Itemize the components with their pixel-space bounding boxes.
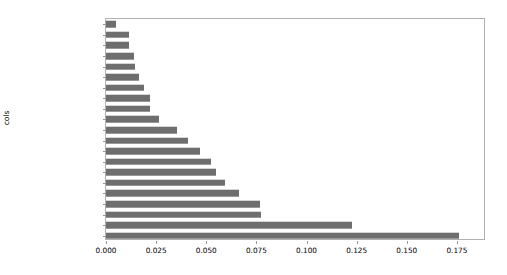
bar-row: saleElapsed: [106, 156, 486, 167]
bar-row: Hydraulics: [106, 82, 486, 93]
bar: [106, 222, 352, 229]
y-tick-mark: [103, 77, 106, 78]
plot-area: Drive_SystemProductGroupProductGroupDesc…: [105, 18, 485, 240]
y-tick-mark: [103, 56, 106, 57]
bar-row: ModelID: [106, 167, 486, 178]
bar-row: Coupler_System: [106, 188, 486, 199]
y-tick-mark: [103, 130, 106, 131]
x-tick-mark: [407, 241, 408, 244]
bar-row: ProductSize: [106, 220, 486, 231]
bar: [106, 53, 134, 60]
bar: [106, 148, 200, 155]
bar-row: fiModelDescriptor: [106, 72, 486, 83]
bar-row: Drive_System: [106, 19, 486, 30]
y-tick-mark: [103, 183, 106, 184]
bar: [106, 95, 150, 102]
y-tick-mark: [103, 162, 106, 163]
bar-row: Tire_Size: [106, 51, 486, 62]
bar: [106, 84, 144, 91]
bar: [106, 127, 177, 134]
y-tick-mark: [103, 35, 106, 36]
y-axis-title: cols: [2, 78, 12, 118]
y-tick-mark: [103, 193, 106, 194]
y-tick-mark: [103, 141, 106, 142]
feature-importance-chart: cols Drive_SystemProductGroupProductGrou…: [0, 0, 507, 275]
x-tick-mark: [156, 241, 157, 244]
x-tick-mark: [206, 241, 207, 244]
bar-row: fiBaseModel: [106, 104, 486, 115]
bar: [106, 21, 116, 28]
y-tick-mark: [103, 98, 106, 99]
bar: [106, 116, 159, 123]
bar-row: fiSecondaryDesc: [106, 146, 486, 157]
bar: [106, 74, 139, 81]
bar: [106, 190, 239, 197]
bar: [106, 32, 129, 39]
y-tick-mark: [103, 215, 106, 216]
y-tick-mark: [103, 225, 106, 226]
x-tick-mark: [106, 241, 107, 244]
bar-row: Enclosure: [106, 135, 486, 146]
x-tick-label: 0.175: [427, 246, 487, 255]
bar-row: ProductGroup: [106, 30, 486, 41]
y-tick-mark: [103, 236, 106, 237]
bar-row: Hydraulics_Flow: [106, 178, 486, 189]
y-tick-mark: [103, 45, 106, 46]
bar: [106, 201, 260, 208]
x-tick-mark: [256, 241, 257, 244]
bar: [106, 106, 150, 113]
bar: [106, 63, 135, 70]
bar-row: YearMade: [106, 230, 486, 241]
x-tick-mark: [457, 241, 458, 244]
y-tick-mark: [103, 88, 106, 89]
bar-row: MachineID: [106, 61, 486, 72]
bar: [106, 158, 211, 165]
bar: [106, 42, 129, 49]
bar: [106, 180, 225, 187]
y-tick-mark: [103, 24, 106, 25]
bar: [106, 232, 459, 239]
bar-series: Drive_SystemProductGroupProductGroupDesc…: [106, 19, 484, 239]
x-tick-mark: [307, 241, 308, 244]
y-tick-mark: [103, 151, 106, 152]
bar-row: fiProductClassDesc: [106, 209, 486, 220]
bar-row: saleYear: [106, 93, 486, 104]
y-tick-mark: [103, 172, 106, 173]
bar-row: Grouser_Tracks: [106, 199, 486, 210]
bar: [106, 211, 261, 218]
y-axis-title-text: cols: [2, 98, 12, 138]
bar: [106, 169, 216, 176]
bar-row: fiModelDesc: [106, 125, 486, 136]
y-tick-mark: [103, 67, 106, 68]
x-tick-mark: [357, 241, 358, 244]
bar-row: SalesID: [106, 114, 486, 125]
y-tick-mark: [103, 119, 106, 120]
y-tick-mark: [103, 204, 106, 205]
bar: [106, 137, 188, 144]
bar-row: ProductGroupDesc: [106, 40, 486, 51]
y-tick-mark: [103, 109, 106, 110]
